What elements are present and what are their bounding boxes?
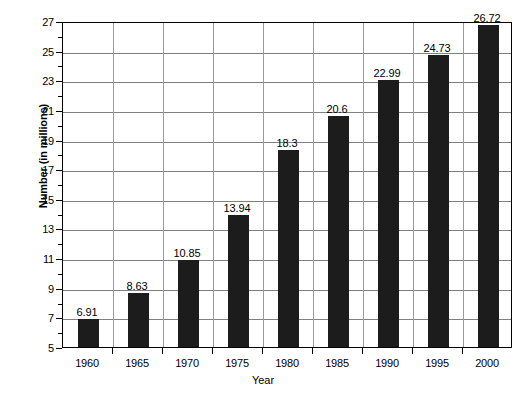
category-separator <box>213 23 214 347</box>
y-axis-minor-tick <box>58 66 62 67</box>
y-axis-tick-label: 9 <box>20 284 54 295</box>
y-axis-minor-tick <box>58 244 62 245</box>
y-axis-tick-label: 7 <box>20 313 54 324</box>
y-axis-minor-tick <box>58 155 62 156</box>
x-axis-tick <box>312 348 313 354</box>
bar <box>128 293 149 347</box>
y-axis-major-tick <box>56 52 62 53</box>
y-axis-major-tick <box>56 170 62 171</box>
y-axis-minor-tick <box>58 126 62 127</box>
y-axis-tick-label: 27 <box>20 17 54 28</box>
bar <box>328 116 349 347</box>
category-separator <box>313 23 314 347</box>
bar-value-label: 20.6 <box>302 103 372 115</box>
y-axis-minor-tick <box>58 304 62 305</box>
y-axis-major-tick <box>56 111 62 112</box>
y-axis-major-tick <box>56 289 62 290</box>
y-axis-major-tick <box>56 229 62 230</box>
y-axis-major-tick <box>56 22 62 23</box>
y-axis-minor-tick <box>58 96 62 97</box>
bar-value-label: 22.99 <box>352 67 422 79</box>
bar-value-label: 13.94 <box>202 202 272 214</box>
bar <box>278 150 299 347</box>
x-axis-tick <box>212 348 213 354</box>
x-axis-tick <box>162 348 163 354</box>
x-axis-tick <box>112 348 113 354</box>
y-axis-major-tick <box>56 141 62 142</box>
category-separator <box>263 23 264 347</box>
category-separator <box>163 23 164 347</box>
y-axis-major-tick <box>56 200 62 201</box>
bar-chart: 272523211917151311975 196019651970197519… <box>0 0 526 393</box>
y-axis-minor-tick <box>58 185 62 186</box>
x-axis-tick <box>462 348 463 354</box>
bar <box>428 55 449 347</box>
bar-value-label: 24.73 <box>402 42 472 54</box>
bar-value-label: 6.91 <box>52 306 122 318</box>
bar-value-label: 8.63 <box>102 280 172 292</box>
bar-value-label: 26.72 <box>452 12 522 24</box>
y-axis-major-tick <box>56 81 62 82</box>
plot-area <box>62 22 512 348</box>
category-separator <box>113 23 114 347</box>
y-axis-minor-tick <box>58 215 62 216</box>
y-axis-tick-label: 5 <box>20 343 54 354</box>
bar-value-label: 18.3 <box>252 137 322 149</box>
x-axis-tick <box>262 348 263 354</box>
y-axis-tick-label: 11 <box>20 254 54 265</box>
x-axis-tick <box>362 348 363 354</box>
x-axis-tick-label: 2000 <box>457 357 517 369</box>
category-separator <box>463 23 464 347</box>
y-axis-title: Number (in millions) <box>37 76 49 236</box>
y-axis-major-tick <box>56 318 62 319</box>
y-axis-tick-label: 25 <box>20 47 54 58</box>
x-axis-tick <box>412 348 413 354</box>
bar <box>228 215 249 347</box>
bar <box>478 25 499 347</box>
y-axis-minor-tick <box>58 274 62 275</box>
bar <box>178 260 199 347</box>
y-axis-minor-tick <box>58 37 62 38</box>
x-axis-title: Year <box>0 374 526 386</box>
bar <box>378 80 399 347</box>
bar <box>78 319 99 347</box>
y-axis-major-tick <box>56 348 62 349</box>
y-axis-major-tick <box>56 259 62 260</box>
bar-value-label: 10.85 <box>152 247 222 259</box>
y-axis-minor-tick <box>58 333 62 334</box>
